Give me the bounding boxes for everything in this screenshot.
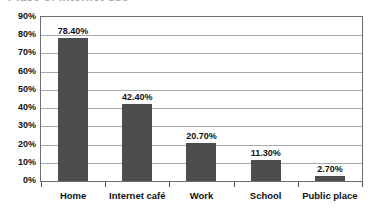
bar-value-label: 11.30%	[251, 148, 281, 158]
bar-value-label: 20.70%	[186, 131, 217, 141]
x-axis-tick	[105, 182, 106, 187]
x-axis-category-label: School	[234, 190, 298, 202]
bar-school[interactable]	[251, 160, 281, 181]
y-axis-tick-label: 20%	[4, 140, 36, 149]
y-axis-tick-label: 50%	[4, 85, 36, 94]
bar-value-label: 2.70%	[317, 164, 343, 174]
bars-layer: 78.40%42.40%20.70%11.30%2.70%	[41, 17, 362, 181]
x-axis-tick	[362, 182, 363, 187]
bar-chart-figure: 0%10%20%30%40%50%60%70%80%90% 78.40%42.4…	[0, 0, 372, 213]
bar-slot: 42.40%	[105, 17, 169, 181]
y-axis-tick-label: 30%	[4, 121, 36, 130]
x-axis-tick	[234, 182, 235, 187]
y-axis-tick-label: 10%	[4, 158, 36, 167]
bar-internet-caf-[interactable]	[122, 104, 152, 181]
bar-public-place[interactable]	[315, 176, 345, 181]
bar-home[interactable]	[58, 38, 88, 181]
y-axis-tick-label: 90%	[4, 12, 36, 21]
x-axis-labels: HomeInternet caféWorkSchoolPublic place	[41, 190, 362, 206]
x-axis-category-label: Internet café	[105, 190, 169, 202]
x-axis-tick	[41, 182, 42, 187]
bar-slot: 20.70%	[169, 17, 233, 181]
bar-slot: 11.30%	[234, 17, 298, 181]
x-axis-category-label: Home	[41, 190, 105, 202]
bar-slot: 2.70%	[298, 17, 362, 181]
x-axis-category-label: Public place	[298, 190, 362, 202]
bar-work[interactable]	[186, 143, 216, 181]
x-axis-tick	[169, 182, 170, 187]
x-axis-category-label: Work	[169, 190, 233, 202]
y-axis-tick-label: 80%	[4, 30, 36, 39]
x-axis-ticks	[40, 182, 363, 188]
y-axis-tick-label: 60%	[4, 67, 36, 76]
bar-value-label: 42.40%	[122, 92, 153, 102]
y-axis-tick-label: 70%	[4, 48, 36, 57]
y-axis-tick-label: 40%	[4, 103, 36, 112]
bar-value-label: 78.40%	[58, 26, 89, 36]
x-axis-tick	[298, 182, 299, 187]
y-axis-tick-label: 0%	[4, 176, 36, 185]
bar-slot: 78.40%	[41, 17, 105, 181]
